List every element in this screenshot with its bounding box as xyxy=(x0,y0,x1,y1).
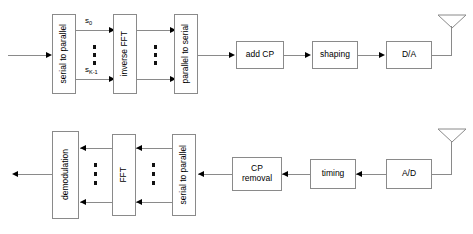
ellipsis-dot xyxy=(94,181,97,185)
block-serial-to-parallel-rx[interactable]: serial to parallel xyxy=(172,134,196,216)
ellipsis-dot xyxy=(152,181,155,185)
wire-fft-to-demod-top-arrowhead xyxy=(80,145,86,151)
rx-output-wire xyxy=(14,174,52,175)
block-da-converter[interactable]: D/A xyxy=(386,41,432,69)
wire-antenna-to-ad xyxy=(432,174,452,175)
block-label: serial to parallel xyxy=(179,145,189,205)
wire-shaping-to-da-arrowhead xyxy=(379,52,385,58)
block-shaping[interactable]: shaping xyxy=(312,41,358,69)
ellipsis-dot xyxy=(152,172,155,176)
block-label: add CP xyxy=(246,50,274,60)
wire-ad-to-timing-arrowhead xyxy=(356,171,362,177)
wire-antenna-stem-tx xyxy=(451,26,452,56)
wire-fft-to-demod-bottom-arrowhead xyxy=(80,199,86,205)
block-ad-converter[interactable]: A/D xyxy=(386,159,432,189)
block-label: FFT xyxy=(119,167,129,183)
block-label: parallel to serial xyxy=(181,24,191,84)
wire-s2p-to-fft-top-arrowhead xyxy=(136,145,142,151)
wire-da-to-antenna xyxy=(432,55,452,56)
rx-output-arrowhead xyxy=(12,171,18,177)
block-label: inverse FFT xyxy=(120,31,130,76)
wire-p2s-to-addcp xyxy=(198,55,232,56)
wire-cpremoval-to-s2p-arrowhead xyxy=(198,171,204,177)
wire-p2s-to-addcp-arrowhead xyxy=(229,52,235,58)
ellipsis-dot xyxy=(154,53,157,57)
ellipsis-dot xyxy=(154,45,157,49)
ellipsis-dot xyxy=(94,172,97,176)
block-cp-removal[interactable]: CP removal xyxy=(232,157,282,191)
block-timing[interactable]: timing xyxy=(310,159,356,189)
receive-antenna-icon xyxy=(437,128,467,144)
signal-label-sk1: sK-1 xyxy=(85,65,98,74)
signal-label-s0: s0 xyxy=(85,16,92,25)
ellipsis-dot xyxy=(94,163,97,167)
block-label: shaping xyxy=(320,50,350,60)
block-label: timing xyxy=(322,169,345,179)
ellipsis-dot xyxy=(93,61,96,65)
wire-timing-to-cpremoval-arrowhead xyxy=(282,171,288,177)
block-label: serial to parallel xyxy=(59,24,69,84)
wire-addcp-to-shaping-arrowhead xyxy=(305,52,311,58)
tx-input-wire xyxy=(8,55,50,56)
block-serial-to-parallel-tx[interactable]: serial to parallel xyxy=(52,14,76,94)
block-label: CP removal xyxy=(242,164,272,184)
ofdm-block-diagram: serial to parallel s0 sK-1 inverse FFT p… xyxy=(0,0,473,234)
wire-sk1 xyxy=(76,79,112,80)
wire-s0 xyxy=(76,30,112,31)
wire-s2p-to-fft-bottom-arrowhead xyxy=(136,199,142,205)
block-demodulation[interactable]: demodulation xyxy=(52,131,79,219)
signal-label-sk1-subscript: K-1 xyxy=(89,69,98,75)
block-label: demodulation xyxy=(61,149,71,200)
ellipsis-dot xyxy=(93,45,96,49)
wire-ifft-to-p2s-top xyxy=(137,30,173,31)
transmit-antenna-icon xyxy=(437,14,467,30)
wire-ifft-to-p2s-bottom xyxy=(137,79,173,80)
wire-antenna-stem-rx xyxy=(451,141,452,175)
signal-label-s0-subscript: 0 xyxy=(89,20,92,26)
ellipsis-dot xyxy=(93,53,96,57)
block-fft[interactable]: FFT xyxy=(112,134,136,216)
block-parallel-to-serial[interactable]: parallel to serial xyxy=(174,14,198,94)
block-inverse-fft[interactable]: inverse FFT xyxy=(113,14,137,94)
block-add-cp[interactable]: add CP xyxy=(236,41,284,69)
ellipsis-dot xyxy=(154,61,157,65)
block-label: A/D xyxy=(402,169,416,179)
block-label: D/A xyxy=(402,50,416,60)
ellipsis-dot xyxy=(152,163,155,167)
